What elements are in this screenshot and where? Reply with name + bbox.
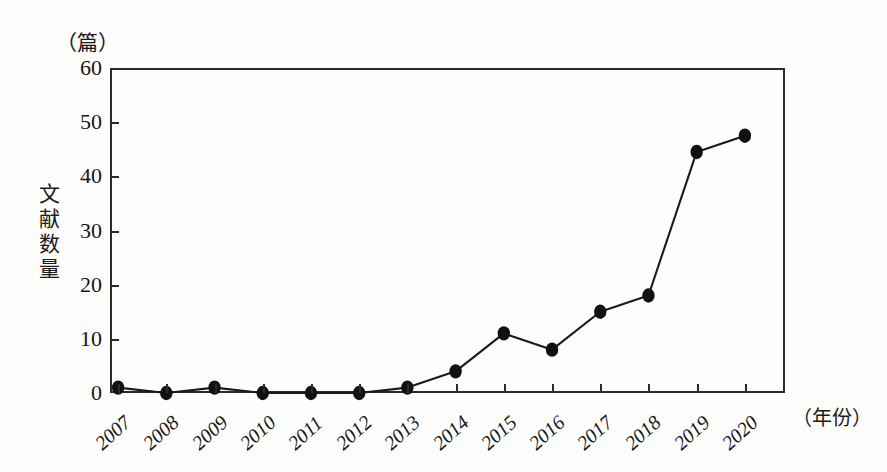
y-tick-label: 40 [58, 163, 102, 189]
x-tick-mark [648, 384, 650, 393]
data-point-marker [546, 342, 558, 356]
y-tick-mark [110, 339, 119, 341]
x-tick-mark [407, 384, 409, 393]
y-tick-mark [110, 285, 119, 287]
x-tick-label: 2012 [332, 411, 377, 455]
x-tick-label: 2017 [573, 411, 618, 455]
x-tick-label: 2019 [669, 411, 714, 455]
x-tick-mark [359, 384, 361, 393]
data-point-marker [594, 305, 606, 319]
x-tick-label: 2016 [524, 411, 569, 455]
data-point-marker [739, 129, 751, 143]
x-tick-mark [745, 384, 747, 393]
x-tick-mark [504, 384, 506, 393]
plot-area [110, 68, 785, 393]
x-axis-unit-caption: （年份） [792, 402, 872, 431]
y-tick-label: 30 [58, 218, 102, 244]
y-axis-unit-caption: （篇） [56, 26, 119, 56]
x-tick-label: 2013 [380, 411, 425, 455]
x-tick-label: 2007 [90, 411, 135, 455]
x-tick-label: 2020 [717, 411, 762, 455]
data-point-marker [690, 145, 702, 159]
y-tick-mark [110, 122, 119, 124]
series-marker-group [112, 129, 751, 401]
x-tick-label: 2008 [139, 411, 184, 455]
x-tick-mark [118, 384, 120, 393]
y-tick-label: 50 [58, 109, 102, 135]
x-tick-mark [215, 384, 217, 393]
y-tick-mark [110, 231, 119, 233]
y-tick-mark [110, 176, 119, 178]
data-point-marker [498, 326, 510, 340]
x-axis-tick-labels: 2007200820092010201120122013201420152016… [110, 393, 785, 472]
series-line-literature-count [118, 136, 745, 393]
x-tick-label: 2014 [428, 411, 473, 455]
x-tick-mark [456, 384, 458, 393]
x-tick-label: 2011 [283, 412, 327, 455]
x-tick-label: 2009 [187, 411, 232, 455]
line-series-svg [110, 68, 785, 393]
data-point-marker [642, 288, 654, 302]
x-tick-label: 2018 [621, 411, 666, 455]
y-tick-label: 0 [58, 380, 102, 406]
x-tick-mark [552, 384, 554, 393]
y-tick-label: 60 [58, 55, 102, 81]
figure-canvas: （篇） 文 献 数 量 0102030405060 20072008200920… [0, 0, 887, 472]
y-tick-label: 20 [58, 272, 102, 298]
x-tick-mark [311, 384, 313, 393]
y-tick-label: 10 [58, 326, 102, 352]
x-tick-mark [166, 384, 168, 393]
x-tick-mark [263, 384, 265, 393]
x-tick-label: 2015 [476, 411, 521, 455]
data-point-marker [449, 364, 461, 378]
x-tick-mark [600, 384, 602, 393]
x-tick-mark [697, 384, 699, 393]
y-axis-tick-labels: 0102030405060 [52, 68, 102, 393]
x-tick-label: 2010 [235, 411, 280, 455]
